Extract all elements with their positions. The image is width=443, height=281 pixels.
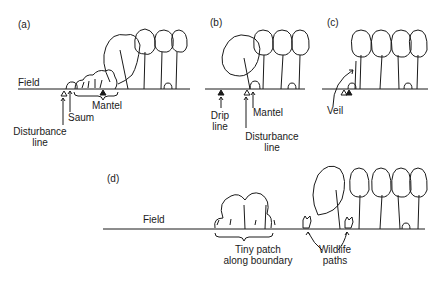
disturbance-line-label-b: Disturbance line [245, 131, 298, 153]
tiny-patch-label-line2: along boundary [224, 255, 293, 266]
panel-c-drawing [322, 30, 428, 106]
disturbance-line-label-b-line1: Disturbance [245, 131, 298, 142]
panel-b-tag: (b) [210, 17, 222, 28]
panel-d-drawing [103, 166, 427, 250]
mantel-label-a: Mantel [92, 100, 122, 111]
drip-line-label-line1: Drip [211, 110, 229, 121]
wildlife-paths-label-line2: paths [319, 255, 351, 266]
disturbance-line-label-a-line2: line [13, 137, 66, 148]
panel-c-tag: (c) [327, 17, 339, 28]
panel-d-tag: (d) [107, 173, 119, 184]
panel-a-tag: (a) [18, 19, 30, 30]
veil-label: Veil [327, 105, 343, 116]
wildlife-paths-label-line1: Wildlife [319, 244, 351, 255]
drip-line-label: Drip line [211, 110, 229, 132]
tiny-patch-label-line1: Tiny patch [224, 244, 293, 255]
field-label-a: Field [18, 77, 40, 88]
mantel-label-b: Mantel [253, 107, 283, 118]
disturbance-line-label-b-line2: line [245, 142, 298, 153]
wildlife-paths-label: Wildlife paths [319, 244, 351, 266]
disturbance-line-label-a-line1: Disturbance [13, 126, 66, 137]
tiny-patch-label: Tiny patch along boundary [224, 244, 293, 266]
field-label-d: Field [143, 214, 165, 225]
saum-label: Saum [68, 112, 94, 123]
drip-line-label-line2: line [211, 121, 229, 132]
disturbance-line-label-a: Disturbance line [13, 126, 66, 148]
